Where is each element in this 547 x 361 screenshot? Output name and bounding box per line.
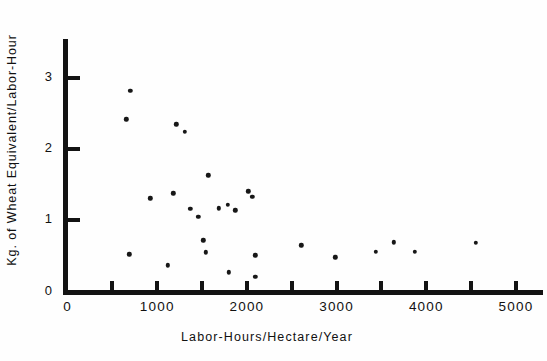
y-axis-tick: [68, 218, 80, 222]
y-axis-tick-label: 3: [26, 69, 52, 84]
plot-area: [0, 0, 547, 361]
x-axis-tick: [155, 281, 159, 291]
y-axis-tick: [68, 147, 80, 151]
data-point: [206, 173, 210, 177]
y-axis-tick: [68, 76, 80, 80]
x-axis-tick-label: 3000: [319, 299, 354, 314]
data-point: [226, 270, 230, 274]
x-axis-tick: [200, 281, 204, 291]
data-point: [392, 240, 396, 244]
data-point: [196, 215, 200, 219]
data-point: [165, 263, 169, 267]
x-axis-tick: [514, 281, 518, 291]
data-point: [250, 195, 254, 199]
x-axis-tick: [110, 281, 114, 291]
data-point: [299, 243, 303, 247]
y-axis-tick-label: 0: [26, 283, 52, 298]
data-point: [413, 249, 417, 253]
data-point: [253, 274, 257, 278]
data-point: [128, 89, 132, 93]
x-axis-tick: [379, 281, 383, 291]
x-axis-tick: [469, 281, 473, 291]
y-axis-tick-label: 1: [26, 211, 52, 226]
data-point: [333, 255, 337, 259]
data-point: [203, 250, 207, 254]
x-axis-tick-label: 2000: [229, 299, 264, 314]
x-axis-tick: [290, 281, 294, 291]
x-axis-tick-label: 5000: [499, 299, 534, 314]
data-point: [201, 238, 205, 242]
data-point: [225, 202, 229, 206]
x-axis-tick: [335, 281, 339, 291]
x-axis-tick-label: 4000: [409, 299, 444, 314]
data-point: [124, 117, 128, 121]
scatter-chart-figure: Kg. of Wheat Equivalent/Labor-Hour Labor…: [0, 0, 547, 361]
x-axis-tick: [245, 281, 249, 291]
data-point: [374, 249, 378, 253]
data-point: [246, 189, 250, 193]
data-point: [188, 207, 192, 211]
data-point: [148, 196, 152, 200]
data-point: [171, 191, 175, 195]
x-axis-tick-label: 0: [63, 299, 72, 314]
x-axis-title: Labor-Hours/Hectare/Year: [67, 330, 467, 344]
data-point: [127, 252, 131, 256]
x-axis-tick-label: 1000: [140, 299, 175, 314]
data-point: [233, 208, 237, 212]
data-point: [174, 122, 178, 126]
data-point: [182, 130, 186, 134]
x-axis-tick: [424, 281, 428, 291]
data-point: [216, 206, 220, 210]
y-axis-tick-label: 2: [26, 140, 52, 155]
data-point: [474, 241, 478, 245]
data-point: [253, 253, 257, 257]
